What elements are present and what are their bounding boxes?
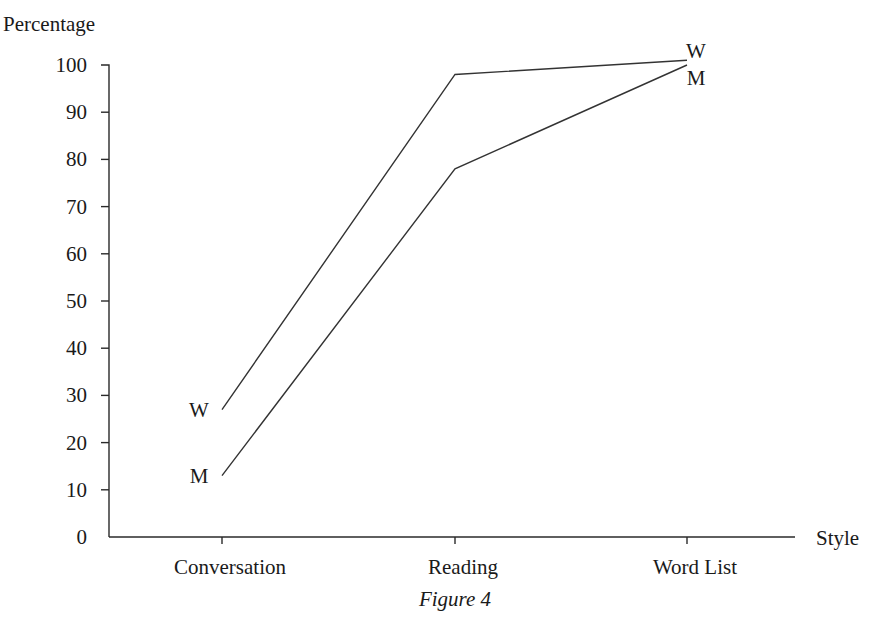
y-tick-label: 30 (66, 383, 87, 407)
y-axis: 0102030405060708090100 (56, 53, 110, 549)
y-axis-title: Percentage (3, 12, 95, 36)
series-line-m (222, 65, 687, 476)
y-tick-label: 50 (66, 289, 87, 313)
x-axis: ConversationReadingWord List (109, 537, 795, 579)
y-tick-label: 0 (77, 525, 88, 549)
series-group: WWMM (189, 39, 706, 487)
x-axis-title: Style (816, 526, 859, 550)
y-tick-label: 20 (66, 431, 87, 455)
series-label-end: M (687, 66, 706, 90)
y-tick-label: 40 (66, 336, 87, 360)
x-tick-label: Word List (653, 555, 737, 579)
series-label-start: W (189, 398, 209, 422)
y-tick-label: 80 (66, 147, 87, 171)
y-tick-label: 90 (66, 100, 87, 124)
x-tick-label: Reading (428, 555, 498, 579)
line-chart: Percentage 0102030405060708090100 Conver… (0, 0, 870, 625)
y-tick-label: 70 (66, 195, 87, 219)
y-tick-label: 10 (66, 478, 87, 502)
series-label-start: M (190, 464, 209, 488)
figure-caption: Figure 4 (418, 587, 492, 611)
x-tick-label: Conversation (174, 555, 286, 579)
series-line-w (222, 60, 687, 409)
y-tick-label: 60 (66, 242, 87, 266)
y-tick-label: 100 (56, 53, 88, 77)
series-label-end: W (686, 39, 706, 63)
